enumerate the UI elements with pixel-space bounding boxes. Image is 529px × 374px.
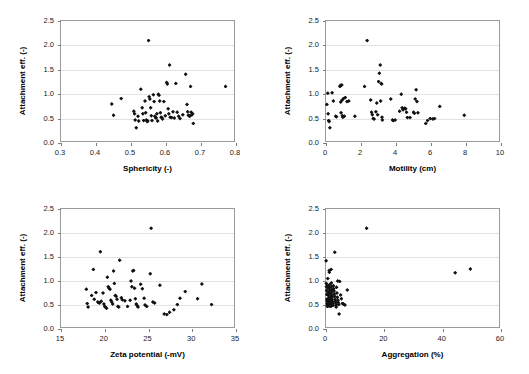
y-tick-label: 1.5 <box>292 252 319 261</box>
y-tick <box>323 281 326 282</box>
data-point <box>365 226 369 230</box>
panel-aggregation: 0.00.51.01.52.02.50204060Aggregation (%)… <box>0 0 529 374</box>
scatter-plot-figure: 0.00.51.01.52.02.50.30.40.50.60.70.8Sphe… <box>0 0 529 374</box>
y-tick-label: 1.0 <box>292 276 319 285</box>
y-tick-label: 0.5 <box>292 300 319 309</box>
data-point <box>333 250 337 254</box>
gridline-y <box>326 281 499 282</box>
gridline-y <box>326 257 499 258</box>
data-point <box>337 312 341 316</box>
x-tick <box>384 329 385 332</box>
data-point <box>339 293 343 297</box>
data-point <box>324 259 328 263</box>
x-tick-label: 20 <box>379 334 387 343</box>
y-axis-title-aggregation: Attachment eff. (-) <box>283 234 292 302</box>
x-tick <box>326 329 327 332</box>
data-point <box>468 267 472 271</box>
y-tick <box>323 209 326 210</box>
data-point <box>326 277 330 281</box>
x-tick-label: 40 <box>437 334 445 343</box>
x-tick <box>501 329 502 332</box>
y-tick-label: 2.5 <box>292 204 319 213</box>
y-tick-label: 0.0 <box>292 324 319 333</box>
data-point <box>345 288 349 292</box>
gridline-y <box>326 233 499 234</box>
data-point <box>339 297 343 301</box>
y-tick <box>323 257 326 258</box>
data-point <box>453 271 457 275</box>
gridline-y <box>326 305 499 306</box>
plot-area-aggregation <box>325 208 500 328</box>
x-tick <box>443 329 444 332</box>
x-tick-label: 0 <box>323 334 327 343</box>
x-tick-label: 60 <box>496 334 504 343</box>
x-axis-title-aggregation: Aggregation (%) <box>382 350 444 359</box>
y-tick <box>323 233 326 234</box>
y-tick-label: 2.0 <box>292 228 319 237</box>
